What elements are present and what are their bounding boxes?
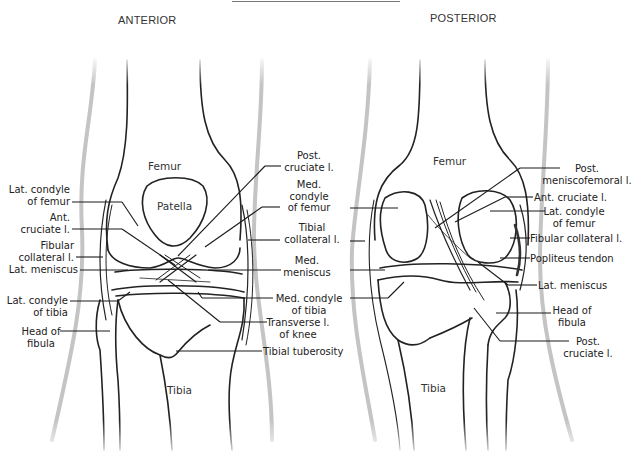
label-tibial-tuberosity: Tibial tuberosity [263,346,343,358]
posterior-femur-label: Femur [433,155,466,167]
anterior-patella-label: Patella [157,200,192,212]
label-post-cruciate-posterior: Post. cruciate l. [560,336,616,359]
label-fibular-collateral-anterior: Fibular collateral l. [18,240,74,263]
label-post-cruciate-anterior: Post. cruciate l. [281,150,337,173]
label-ant-cruciate-posterior: Ant. cruciate l. [534,192,607,204]
anterior-femur-label: Femur [148,160,181,172]
label-head-of-fibula-posterior: Head of fibula [552,305,592,328]
anterior-skin-outline [52,60,272,440]
posterior-bones [369,60,528,450]
anterior-tibia-label: Tibia [167,384,192,396]
label-lat-meniscus-anterior: Lat. meniscus [9,264,78,276]
label-lat-condyle-of-femur-anterior: Lat. condyle of femur [9,184,70,207]
label-ant-cruciate-anterior: Ant. cruciate l. [20,212,70,235]
label-tibial-collateral-anterior: Tibial collateral l. [280,222,344,245]
label-med-condyle-of-femur-anterior: Med. condyle of femur [281,179,337,214]
label-head-of-fibula-anterior: Head of fibula [20,326,62,349]
label-med-condyle-of-tibia-anterior: Med. condyle of tibia [273,293,345,316]
label-post-meniscofemoral: Post. meniscofemoral l. [540,163,634,186]
label-lat-condyle-of-tibia-anterior: Lat. condyle of tibia [7,295,68,318]
posterior-tibia-label: Tibia [421,382,446,394]
posterior-left-leaders [350,208,404,298]
label-popliteus-tendon: Popliteus tendon [530,253,614,265]
label-fibular-collateral-posterior: Fibular collateral l. [530,233,622,245]
posterior-skin-outline [352,60,572,440]
label-transverse-l-of-knee: Transverse l. of knee [266,317,330,340]
label-lat-meniscus-posterior: Lat. meniscus [538,280,607,292]
label-med-meniscus-anterior: Med. meniscus [281,255,333,278]
label-lat-condyle-of-femur-posterior: Lat. condyle of femur [540,206,608,229]
